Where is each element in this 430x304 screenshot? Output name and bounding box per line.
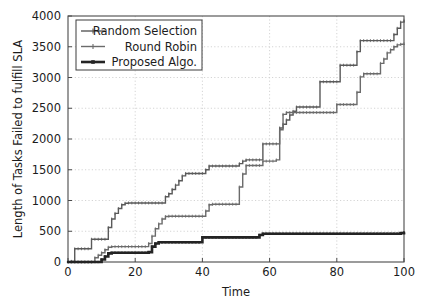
y-tick-label: 0 bbox=[54, 255, 61, 269]
legend-label: Proposed Algo. bbox=[112, 55, 197, 69]
chart-canvas: 0204060801000500100015002000250030003500… bbox=[0, 0, 430, 304]
y-tick-label: 3000 bbox=[32, 71, 61, 85]
y-tick-label: 3500 bbox=[32, 40, 61, 54]
legend-label: Round Robin bbox=[125, 40, 197, 54]
x-tick-label: 0 bbox=[64, 265, 71, 279]
x-tick-label: 60 bbox=[262, 265, 277, 279]
y-tick-label: 1500 bbox=[32, 163, 61, 177]
y-tick-label: 2000 bbox=[32, 132, 61, 146]
series-markers-1 bbox=[68, 42, 404, 263]
series-line-1 bbox=[68, 44, 404, 262]
y-axis-title: Length of Tasks Failed to fulfill SLA bbox=[11, 40, 25, 239]
y-tick-label: 500 bbox=[39, 224, 61, 238]
legend-marker-square bbox=[91, 60, 95, 64]
chart-legend: Random SelectionRound RobinProposed Algo… bbox=[76, 20, 202, 70]
y-tick-label: 4000 bbox=[32, 9, 61, 23]
legend-label: Random Selection bbox=[93, 24, 197, 38]
x-tick-label: 80 bbox=[329, 265, 344, 279]
chart-figure: 0204060801000500100015002000250030003500… bbox=[0, 0, 430, 304]
legend-item-0[interactable]: Random Selection bbox=[81, 24, 197, 38]
y-tick-label: 1000 bbox=[32, 194, 61, 208]
y-tick-label: 2500 bbox=[32, 101, 61, 115]
x-axis-title: Time bbox=[221, 285, 250, 299]
x-tick-label: 20 bbox=[128, 265, 143, 279]
x-tick-label: 40 bbox=[195, 265, 210, 279]
x-tick-label: 100 bbox=[393, 265, 415, 279]
